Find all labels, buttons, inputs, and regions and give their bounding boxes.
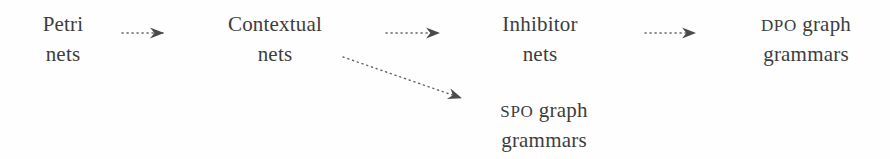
node-spo-graph-grammars: SPO graph grammars (465, 96, 623, 156)
node-dpo-graph-grammars: DPO graph grammars (730, 10, 882, 70)
node-petri-nets-line2: nets (8, 40, 118, 70)
node-contextual-nets: Contextual nets (196, 10, 354, 70)
node-petri-nets-line1: Petri (8, 10, 118, 40)
node-dpo-graph-grammars-line1: DPO graph (730, 10, 882, 40)
dpo-acronym: DPO (761, 16, 797, 35)
node-spo-graph-grammars-line1: SPO graph (465, 96, 623, 126)
node-spo-graph-grammars-line1-rest: graph (533, 98, 587, 122)
node-petri-nets: Petri nets (8, 10, 118, 70)
node-dpo-graph-grammars-line1-rest: graph (797, 12, 851, 36)
node-dpo-graph-grammars-line2: grammars (730, 40, 882, 70)
node-inhibitor-nets-line2: nets (470, 40, 610, 70)
node-contextual-nets-line2: nets (196, 40, 354, 70)
diagram-canvas: Petri nets Contextual nets Inhibitor net… (0, 0, 890, 159)
node-inhibitor-nets: Inhibitor nets (470, 10, 610, 70)
node-inhibitor-nets-line1: Inhibitor (470, 10, 610, 40)
node-contextual-nets-line1: Contextual (196, 10, 354, 40)
node-spo-graph-grammars-line2: grammars (465, 126, 623, 156)
edge-contextual-to-spo (343, 57, 461, 98)
spo-acronym: SPO (500, 102, 533, 121)
